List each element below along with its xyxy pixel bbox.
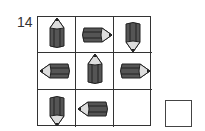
grid-cell	[38, 17, 76, 53]
pencil-icon	[77, 101, 113, 117]
answer-box[interactable]	[165, 100, 192, 127]
pencil-icon	[125, 17, 141, 53]
grid-cell	[76, 17, 114, 53]
grid-cell	[76, 90, 114, 127]
pencil-icon	[77, 27, 113, 43]
grid-cell	[76, 53, 114, 90]
grid-cell	[114, 53, 152, 90]
pencil-icon	[49, 17, 65, 53]
puzzle-grid	[37, 16, 151, 126]
question-number: 14	[17, 14, 33, 30]
grid-cell	[114, 90, 152, 127]
grid-cell	[114, 17, 152, 53]
pencil-icon	[49, 91, 65, 127]
grid-cell	[38, 53, 76, 90]
pencil-icon	[39, 63, 75, 79]
pencil-icon	[87, 53, 103, 89]
pencil-icon	[115, 63, 151, 79]
grid-cell	[38, 90, 76, 127]
